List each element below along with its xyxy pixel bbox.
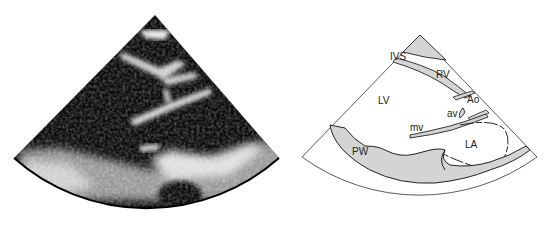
label-la: LA [465, 139, 478, 150]
label-ao: Ao [467, 94, 480, 105]
label-lv: LV [378, 95, 390, 106]
label-mv: mv [410, 122, 423, 133]
label-ivs: IVS [390, 51, 406, 62]
schematic-diagram: IVS RV LV Ao av mv LA PW [290, 0, 552, 225]
echo-sector [0, 0, 290, 225]
echocardiogram-image [0, 0, 290, 225]
label-pw: PW [352, 146, 369, 157]
label-rv: RV [436, 69, 450, 80]
label-av: av [447, 108, 458, 119]
